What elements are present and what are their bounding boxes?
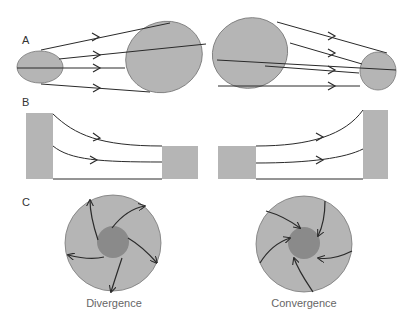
panel-a-convergence bbox=[202, 7, 396, 99]
panel-b-divergence bbox=[26, 113, 198, 179]
caption-divergence: Divergence bbox=[64, 297, 164, 309]
flow-diagram bbox=[0, 0, 415, 328]
panel-b-convergence bbox=[218, 110, 388, 179]
panel-c-divergence bbox=[65, 195, 161, 292]
caption-convergence: Convergence bbox=[254, 297, 354, 309]
panel-c-convergence bbox=[256, 196, 352, 292]
panel-a-divergence bbox=[17, 9, 214, 105]
